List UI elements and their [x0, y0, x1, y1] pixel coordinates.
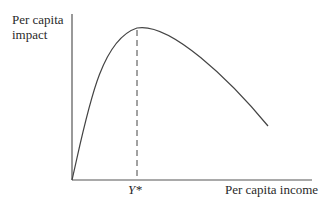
ystar-tick-label: Y*: [128, 182, 142, 198]
x-axis-label: Per capita income: [225, 182, 318, 198]
chart-plot: [0, 0, 328, 202]
impact-curve: [72, 28, 268, 180]
